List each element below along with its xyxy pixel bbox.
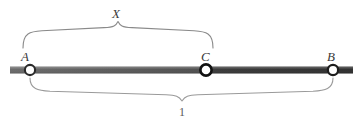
point-marker-a	[25, 65, 35, 75]
point-label-c: C	[201, 50, 210, 63]
point-label-a: A	[21, 50, 29, 63]
point-marker-b	[328, 65, 338, 75]
point-marker-c	[200, 64, 211, 75]
segment-a-to-c	[10, 67, 206, 74]
brace-label-x: X	[112, 7, 120, 20]
brace-upper-x	[23, 22, 213, 49]
brace-label-one: 1	[179, 106, 185, 118]
point-label-b: B	[327, 50, 335, 63]
segment-diagram: X A C B 1	[0, 0, 364, 123]
brace-lower-one	[30, 78, 333, 101]
